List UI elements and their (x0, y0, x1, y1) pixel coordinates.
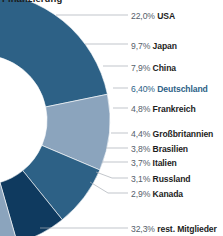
chart-canvas: Finanzierung 22,0% USA 9,7% Japan 7,9% C… (0, 0, 223, 236)
callout-name: Brasilien (153, 144, 188, 154)
callout-japan: 9,7% Japan (131, 41, 177, 51)
callout-rest-mitglieder: 32,3% rest. Mitglieder (131, 224, 217, 234)
callout-percent: 22,0% (131, 11, 155, 21)
callout-name: China (153, 63, 176, 73)
callout-name: Frankreich (153, 104, 196, 114)
callout-percent: 4,8% (131, 104, 150, 114)
callout-name: USA (157, 11, 175, 21)
callout-percent: 3,1% (131, 174, 150, 184)
callout-name: Großbritannien (153, 129, 214, 139)
callout-name: Japan (153, 41, 177, 51)
callout-percent: 32,3% (131, 224, 155, 234)
callout-name: Russland (153, 174, 191, 184)
callout-russland: 3,1% Russland (131, 174, 190, 184)
callout-name: Deutschland (157, 84, 207, 94)
chart-title-cropped: Finanzierung (0, 0, 130, 7)
callout-name: Italien (153, 158, 177, 168)
callout-kanada: 2,9% Kanada (131, 189, 183, 199)
callout-brasilien: 3,8% Brasilien (131, 144, 188, 154)
callout-frankreich: 4,8% Frankreich (131, 104, 196, 114)
callout-deutschland: 6,40% Deutschland (131, 84, 208, 94)
callout-percent: 3,8% (131, 144, 150, 154)
callout-percent: 3,7% (131, 158, 150, 168)
callout-percent: 4,4% (131, 129, 150, 139)
callout-percent: 9,7% (131, 41, 150, 51)
callout-percent: 7,9% (131, 63, 150, 73)
callout-italien: 3,7% Italien (131, 158, 177, 168)
callout-grossbritannien: 4,4% Großbritannien (131, 129, 213, 139)
callout-china: 7,9% China (131, 63, 176, 73)
callout-percent: 6,40% (131, 84, 155, 94)
callout-name: Kanada (153, 189, 183, 199)
callout-usa: 22,0% USA (131, 11, 175, 21)
callout-label-group: 22,0% USA 9,7% Japan 7,9% China 6,40% De… (0, 0, 223, 236)
callout-percent: 2,9% (131, 189, 150, 199)
callout-name: rest. Mitglieder (157, 224, 217, 234)
page-title: Finanzierung (2, 0, 62, 4)
